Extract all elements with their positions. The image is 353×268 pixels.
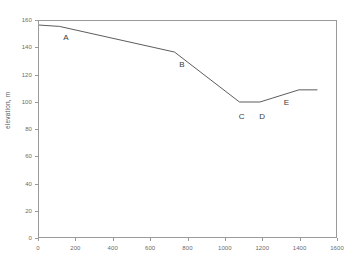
x-tick-label-600: 600 bbox=[145, 245, 155, 251]
y-tick-label-40: 40 bbox=[14, 181, 32, 187]
y-tick-mark-40 bbox=[35, 184, 38, 185]
y-tick-mark-80 bbox=[35, 129, 38, 130]
point-label-b: B bbox=[179, 61, 184, 69]
x-tick-label-800: 800 bbox=[182, 245, 192, 251]
x-tick-label-200: 200 bbox=[70, 245, 80, 251]
y-tick-mark-100 bbox=[35, 102, 38, 103]
x-tick-mark-1600 bbox=[337, 238, 338, 241]
elevation-profile-chart: 020406080100120140160 020040060080010001… bbox=[0, 0, 353, 268]
x-tick-mark-400 bbox=[113, 238, 114, 241]
y-tick-label-120: 120 bbox=[14, 72, 32, 78]
x-tick-label-1400: 1400 bbox=[293, 245, 307, 251]
y-tick-mark-140 bbox=[35, 47, 38, 48]
y-tick-label-100: 100 bbox=[14, 99, 32, 105]
y-tick-mark-160 bbox=[35, 20, 38, 21]
x-tick-label-1200: 1200 bbox=[255, 245, 269, 251]
x-tick-mark-1000 bbox=[225, 238, 226, 241]
point-label-d: D bbox=[259, 113, 265, 121]
x-tick-mark-800 bbox=[188, 238, 189, 241]
y-tick-mark-20 bbox=[35, 211, 38, 212]
y-tick-mark-60 bbox=[35, 156, 38, 157]
y-tick-label-160: 160 bbox=[14, 17, 32, 23]
point-label-c: C bbox=[239, 113, 245, 121]
x-tick-mark-600 bbox=[150, 238, 151, 241]
y-tick-label-0: 0 bbox=[14, 235, 32, 241]
point-label-e: E bbox=[284, 99, 289, 107]
y-tick-label-140: 140 bbox=[14, 44, 32, 50]
x-tick-mark-0 bbox=[38, 238, 39, 241]
x-tick-mark-200 bbox=[75, 238, 76, 241]
y-tick-label-60: 60 bbox=[14, 153, 32, 159]
x-tick-label-400: 400 bbox=[108, 245, 118, 251]
y-tick-label-20: 20 bbox=[14, 208, 32, 214]
x-tick-label-0: 0 bbox=[36, 245, 39, 251]
x-tick-mark-1200 bbox=[262, 238, 263, 241]
x-tick-label-1600: 1600 bbox=[330, 245, 344, 251]
y-axis-title: elevation, m bbox=[4, 92, 11, 129]
y-tick-label-80: 80 bbox=[14, 126, 32, 132]
series-line-elevation-profile bbox=[39, 25, 317, 102]
x-tick-mark-1400 bbox=[300, 238, 301, 241]
y-tick-mark-120 bbox=[35, 75, 38, 76]
plot-line-svg bbox=[39, 21, 336, 237]
plot-frame bbox=[38, 20, 337, 238]
x-tick-label-1000: 1000 bbox=[218, 245, 232, 251]
point-label-a: A bbox=[63, 34, 68, 42]
